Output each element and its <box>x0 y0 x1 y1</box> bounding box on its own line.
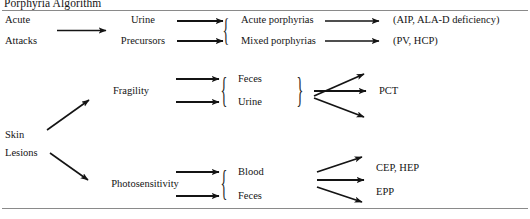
label-feces-photo: Feces <box>238 191 262 202</box>
label-acute-porphyrias: Acute porphyrias <box>241 15 314 26</box>
label-cep-hep: CEP, HEP <box>376 163 419 174</box>
brace-fragility-specimens: { <box>221 72 228 109</box>
arrow-group-to-pct-upper <box>314 74 364 96</box>
label-urine-precursors-1: Urine <box>131 15 155 26</box>
arrow-skin-to-fragility <box>47 100 89 130</box>
label-mixed-porphyrias: Mixed porphyrias <box>241 36 316 47</box>
label-skin: Skin <box>5 130 24 141</box>
arrow-lesions-to-photosensitivity <box>50 153 88 180</box>
arrow-to-cep-hep <box>317 157 362 172</box>
label-fragility: Fragility <box>113 86 149 97</box>
label-lesions: Lesions <box>5 148 38 159</box>
label-blood: Blood <box>238 167 264 178</box>
brace-photosensitivity-specimens: { <box>221 166 228 203</box>
label-photosensitivity: Photosensitivity <box>111 179 179 190</box>
label-acute: Acute <box>5 15 30 26</box>
brace-acute-results: { <box>223 15 230 47</box>
algorithm-diagram-canvas <box>0 0 530 219</box>
label-attacks: Attacks <box>5 36 37 47</box>
brace-fragility-group-close: } <box>297 72 304 109</box>
arrow-to-epp <box>317 187 362 202</box>
label-pct: PCT <box>379 86 398 97</box>
label-urine-fragility: Urine <box>238 97 262 108</box>
label-feces-fragility: Feces <box>238 74 262 85</box>
label-epp: EPP <box>376 187 394 198</box>
label-precursors: Precursors <box>121 36 165 47</box>
arrow-group-to-pct-lower <box>314 98 364 117</box>
label-aip-ala-d: (AIP, ALA-D deficiency) <box>393 15 499 26</box>
label-pv-hcp: (PV, HCP) <box>393 36 438 47</box>
